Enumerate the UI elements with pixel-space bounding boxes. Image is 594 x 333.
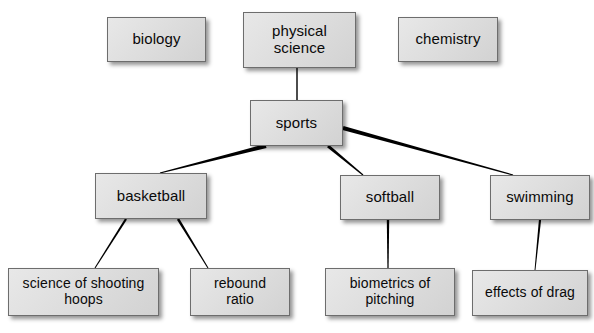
node-label-physical: physical science (268, 23, 331, 57)
node-label-basketball: basketball (113, 188, 190, 205)
node-label-sports: sports (272, 115, 321, 132)
node-label-softball: softball (362, 189, 418, 206)
node-chemistry[interactable]: chemistry (398, 17, 498, 62)
edge-swimming-effects (535, 220, 542, 270)
node-basketball[interactable]: basketball (95, 173, 207, 219)
edge-basketball-rebound (177, 218, 209, 268)
edge-basketball-hoops (95, 218, 127, 268)
node-label-swimming: swimming (502, 189, 577, 206)
node-biology[interactable]: biology (107, 17, 206, 62)
edge-physical-sports (296, 68, 297, 100)
node-effects-drag[interactable]: effects of drag (472, 270, 588, 316)
node-softball[interactable]: softball (340, 175, 440, 220)
node-sports[interactable]: sports (250, 100, 343, 146)
node-label-rebound-ratio: rebound ratio (210, 276, 270, 307)
node-label-shooting-hoops: science of shooting hoops (19, 276, 149, 307)
node-label-effects-drag: effects of drag (481, 285, 579, 301)
node-physical[interactable]: physical science (243, 12, 356, 68)
edge-sports-swimming (342, 126, 513, 176)
node-label-chemistry: chemistry (411, 31, 484, 48)
edge-sports-softball (327, 145, 363, 176)
node-label-biometrics: biometrics of pitching (346, 276, 435, 307)
node-swimming[interactable]: swimming (490, 175, 590, 220)
edge-softball-biometrics (387, 220, 389, 268)
edge-sports-basketball (160, 144, 267, 174)
node-biometrics[interactable]: biometrics of pitching (325, 268, 455, 316)
node-rebound-ratio[interactable]: rebound ratio (190, 268, 290, 316)
node-shooting-hoops[interactable]: science of shooting hoops (8, 268, 159, 316)
node-label-biology: biology (128, 31, 184, 48)
concept-map-diagram: biologyphysical sciencechemistrysportsba… (0, 0, 594, 333)
